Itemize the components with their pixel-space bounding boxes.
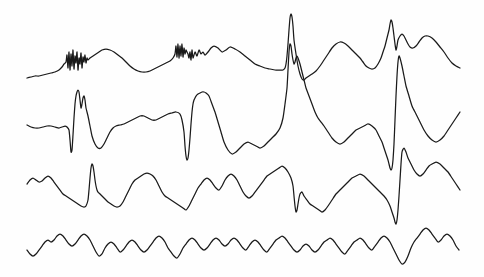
- eeg-figure: [0, 0, 484, 277]
- eeg-chart-svg: [0, 0, 484, 277]
